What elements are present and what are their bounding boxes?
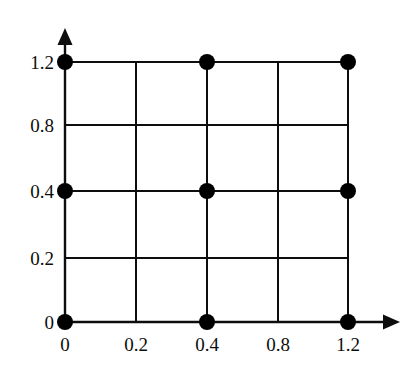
- data-point-marker: [340, 314, 356, 330]
- data-point-marker: [340, 54, 356, 70]
- data-point-marker: [199, 183, 215, 199]
- data-point-marker: [199, 54, 215, 70]
- data-point-marker: [57, 183, 73, 199]
- data-point-marker: [57, 314, 73, 330]
- data-point-marker: [57, 54, 73, 70]
- y-tick-label: 1.2: [30, 53, 54, 72]
- x-tick-label: 0: [60, 335, 70, 354]
- data-point-marker: [340, 183, 356, 199]
- y-tick-label: 0.2: [30, 249, 54, 268]
- x-tick-label: 0.2: [124, 335, 148, 354]
- y-tick-label: 0.8: [30, 116, 54, 135]
- x-tick-label: 0.4: [195, 335, 219, 354]
- y-tick-label: 0.4: [30, 182, 54, 201]
- y-axis-arrowhead: [58, 28, 73, 45]
- data-point-marker: [199, 314, 215, 330]
- plot-canvas: [0, 0, 420, 373]
- axis-lines: [65, 40, 388, 322]
- x-tick-label: 1.2: [336, 335, 360, 354]
- scatter-grid-figure: 00.20.40.81.2 00.20.40.81.2: [0, 0, 420, 373]
- x-tick-label: 0.8: [266, 335, 290, 354]
- x-axis-arrowhead: [383, 315, 400, 330]
- y-tick-label: 0: [45, 313, 55, 332]
